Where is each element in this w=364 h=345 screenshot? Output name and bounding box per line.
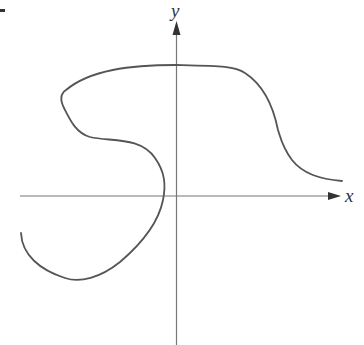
y-axis-arrow-icon — [173, 21, 181, 35]
x-axis-arrow-icon — [328, 192, 341, 200]
corner-mark — [0, 9, 5, 12]
graph-figure: x y — [0, 0, 364, 345]
x-axis-label: x — [344, 185, 354, 206]
function-curve — [21, 65, 342, 280]
y-axis-label: y — [169, 0, 180, 21]
graph-canvas: x y — [0, 0, 364, 345]
